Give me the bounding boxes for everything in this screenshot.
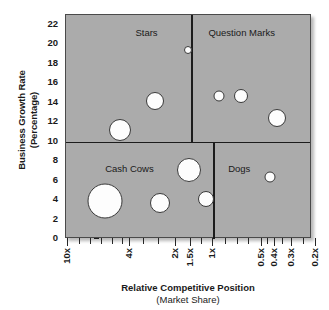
y-axis-tick-label: 4 [34,194,58,204]
x-axis-minor-tick [143,238,144,244]
data-bubble [150,193,170,213]
x-axis-tick-label: 0.4x [269,248,279,267]
x-axis-tick-mark [261,238,262,246]
y-axis-tick-label: 18 [34,58,58,68]
x-axis-tick-label: 0.5x [256,248,266,267]
x-axis-minor-tick [79,238,80,244]
x-axis-minor-tick [158,238,159,244]
y-axis-tick-label: 14 [34,97,58,107]
data-bubble [198,191,214,207]
x-axis-tick-label: 4x [124,248,134,259]
x-axis-minor-tick [303,238,304,244]
bcg-matrix-chart: Business Growth Rate (Percentage) 024681… [0,0,329,310]
x-axis-title-sub: (Market Share) [65,294,311,306]
data-bubble [265,172,276,183]
data-bubble [177,158,201,182]
y-axis-tick-label: 6 [34,175,58,185]
x-axis-tick-mark [175,238,176,246]
x-axis-tick-label: 1.5x [185,248,195,267]
market-share-divider-line-bottom [213,142,215,239]
y-axis-tick-label: 8 [34,155,58,165]
quadrant-label-stars: Stars [135,27,157,38]
data-bubble [109,119,131,141]
quadrant-label-cash-cows: Cash Cows [105,163,154,174]
data-bubble [214,91,225,102]
x-axis-minor-tick [101,238,102,244]
data-bubble [88,184,123,219]
x-axis-tick-mark [212,238,213,246]
x-axis-title: Relative Competitive Position (Market Sh… [65,282,311,305]
data-bubble [184,46,192,54]
x-axis-tick-mark [274,238,275,246]
x-axis-tick-mark [67,238,68,246]
y-axis-tick-label: 22 [34,19,58,29]
x-axis-tick-label: 2x [170,248,180,259]
y-axis-title-main: Business Growth Rate [16,20,28,220]
x-axis-tick-mark [129,238,130,246]
y-axis-tick-labels: 0246810121416182022 [34,14,58,238]
x-axis-minor-tick [201,238,202,244]
y-axis-tick-mark [94,238,99,239]
y-axis-tick-label: 16 [34,77,58,87]
y-axis-tick-label: 0 [34,233,58,243]
x-axis-tick-mark [315,238,316,246]
x-axis-tick-label: 0.2x [310,248,320,267]
x-axis-minor-tick [122,238,123,244]
x-axis-tick-mark [190,238,191,246]
growth-rate-divider-line [66,142,310,144]
x-axis-minor-tick [225,238,226,244]
x-axis-minor-tick [282,238,283,244]
quadrant-label-question-marks: Question Marks [208,27,275,38]
x-axis-tick-label: 1x [207,248,217,259]
y-axis-tick-label: 20 [34,38,58,48]
x-axis-tick-label: 0.3x [286,248,296,267]
x-axis-tick-label: 10x [62,248,72,264]
y-axis-tick-label: 2 [34,214,58,224]
x-axis-title-main: Relative Competitive Position [65,282,311,294]
x-axis-minor-tick [112,238,113,244]
x-axis-minor-tick [237,238,238,244]
x-axis-minor-tick [90,238,91,244]
x-axis-tick-mark [291,238,292,246]
y-axis-tick-label: 12 [34,116,58,126]
quadrant-label-dogs: Dogs [228,163,250,174]
data-bubble [146,92,164,110]
x-axis-minor-tick [248,238,249,244]
plot-area: StarsQuestion MarksCash CowsDogs [65,14,311,238]
data-bubble [268,109,286,127]
y-axis-tick-label: 10 [34,136,58,146]
market-share-divider-line-top [191,15,193,142]
x-axis-minor-tick [267,238,268,244]
data-bubble [234,89,248,103]
